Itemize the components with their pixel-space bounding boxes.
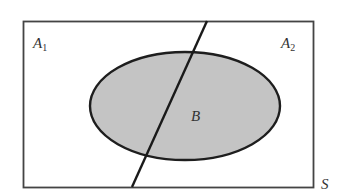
sample-space-label: S bbox=[321, 176, 329, 192]
event-b-label: B bbox=[191, 108, 200, 124]
partition-diagram: A1 A2 B S bbox=[0, 0, 340, 192]
